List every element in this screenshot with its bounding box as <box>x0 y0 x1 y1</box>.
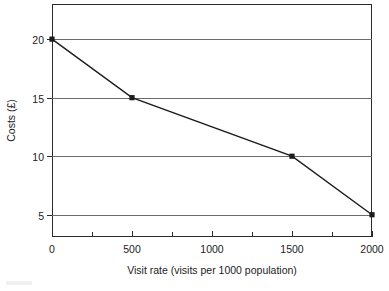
x-tick-label-2000: 2000 <box>360 243 383 256</box>
x-tick-label-1500: 1500 <box>280 243 303 256</box>
x-tick-label-500: 500 <box>123 243 141 256</box>
y-tick-label-5: 5 <box>38 209 44 223</box>
x-tick-label-1000: 1000 <box>200 243 223 256</box>
y-axis-title: Costs (£) <box>4 4 18 237</box>
data-point-500-15 <box>129 95 134 100</box>
data-series-costs <box>52 4 372 237</box>
chart-figure: 5101520 0500100015002000 Costs (£) Visit… <box>0 0 389 291</box>
series-line <box>52 39 372 215</box>
x-tick-2000 <box>372 231 373 237</box>
x-axis-title: Visit rate (visits per 1000 population) <box>52 263 372 277</box>
y-tick-label-20: 20 <box>32 33 44 47</box>
data-point-2000-5 <box>369 212 374 217</box>
plot-area: 5101520 <box>52 4 372 237</box>
y-tick-label-10: 10 <box>32 150 44 164</box>
scan-artifact <box>6 281 32 285</box>
data-point-1500-10 <box>289 154 294 159</box>
y-tick-label-15: 15 <box>32 92 44 106</box>
data-point-0-20 <box>49 37 54 42</box>
x-tick-label-0: 0 <box>49 243 55 256</box>
